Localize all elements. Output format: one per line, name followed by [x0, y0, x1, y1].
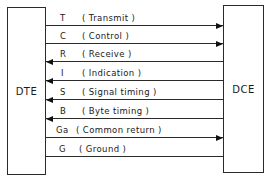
signal-line [46, 156, 223, 157]
signal-description: ( Ground ) [79, 144, 126, 154]
signal-description: ( Byte timing ) [82, 106, 149, 116]
dce-box: DCE [223, 5, 264, 173]
signal-code: I [61, 68, 64, 78]
signal-control: C ( Control ) [46, 25, 223, 44]
signal-code: R [60, 49, 66, 59]
signal-description: ( Control ) [82, 31, 129, 41]
dte-box: DTE [7, 7, 46, 175]
signal-description: ( Common return ) [76, 125, 162, 135]
dte-label: DTE [8, 86, 45, 97]
signal-signal-timing: S ( Signal timing ) [46, 81, 223, 100]
signal-code: C [60, 31, 66, 41]
signal-description: ( Receive ) [82, 49, 132, 59]
signal-byte-timing: B ( Byte timing ) [46, 100, 223, 119]
signal-code: T [60, 13, 66, 23]
signal-code: B [60, 106, 66, 116]
dce-label: DCE [224, 84, 263, 95]
signal-ground: G ( Ground ) [46, 138, 223, 157]
signal-code: S [60, 87, 66, 97]
signal-description: ( Transmit ) [82, 13, 135, 23]
signal-transmit: T ( Transmit ) [46, 7, 223, 26]
signal-common-return: Ga ( Common return ) [46, 119, 223, 138]
signal-code: G [59, 144, 66, 154]
signal-indication: I ( Indication ) [46, 62, 223, 81]
signal-description: ( Signal timing ) [82, 87, 157, 97]
signal-code: Ga [56, 125, 69, 135]
signal-description: ( Indication ) [82, 68, 141, 78]
signal-receive: R ( Receive ) [46, 43, 223, 62]
